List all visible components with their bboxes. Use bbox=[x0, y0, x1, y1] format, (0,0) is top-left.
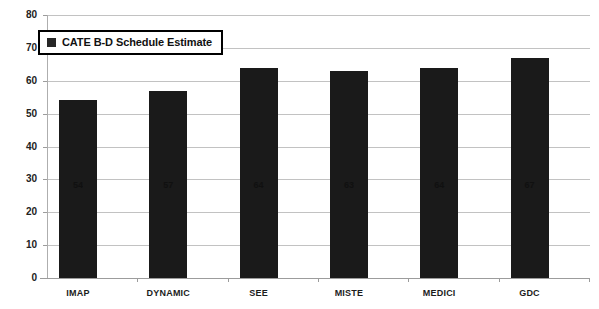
bar-miste: 63 bbox=[330, 71, 368, 278]
bar-value-label: 54 bbox=[59, 180, 97, 190]
x-tick-label-medici: MEDICI bbox=[394, 288, 484, 298]
x-tick-mark bbox=[137, 278, 138, 282]
x-tick-mark bbox=[228, 278, 229, 282]
bar-medici: 64 bbox=[420, 68, 458, 278]
bar-gdc: 67 bbox=[511, 58, 549, 278]
bar-value-label: 63 bbox=[330, 180, 368, 190]
bar-value-label: 64 bbox=[420, 180, 458, 190]
x-axis-line bbox=[40, 278, 590, 279]
x-tick-label-imap: IMAP bbox=[33, 288, 123, 298]
x-tick-mark bbox=[589, 278, 590, 282]
x-tick-mark bbox=[318, 278, 319, 282]
bar-value-label: 67 bbox=[511, 180, 549, 190]
y-tick-label: 60 bbox=[3, 76, 37, 86]
x-tick-label-gdc: GDC bbox=[485, 288, 575, 298]
bar-dynamic: 57 bbox=[149, 91, 187, 278]
y-tick-label: 40 bbox=[3, 142, 37, 152]
bar-imap: 54 bbox=[59, 100, 97, 278]
bar-see: 64 bbox=[240, 68, 278, 278]
x-tick-label-miste: MISTE bbox=[304, 288, 394, 298]
y-tick-label: 80 bbox=[3, 10, 37, 20]
y-tick-label: 10 bbox=[3, 240, 37, 250]
legend-square-icon bbox=[47, 38, 56, 47]
y-tick-label: 0 bbox=[3, 273, 37, 283]
y-tick-label: 50 bbox=[3, 109, 37, 119]
legend-label: CATE B-D Schedule Estimate bbox=[62, 36, 212, 48]
bar-value-label: 57 bbox=[149, 180, 187, 190]
y-tick-label: 70 bbox=[3, 43, 37, 53]
chart-legend: CATE B-D Schedule Estimate bbox=[38, 30, 223, 55]
x-tick-label-dynamic: DYNAMIC bbox=[123, 288, 213, 298]
y-tick-label: 20 bbox=[3, 207, 37, 217]
y-tick-label: 30 bbox=[3, 174, 37, 184]
x-tick-mark bbox=[499, 278, 500, 282]
x-tick-label-see: SEE bbox=[214, 288, 304, 298]
x-tick-mark bbox=[408, 278, 409, 282]
bar-chart: 01020304050607080 545764636467 IMAPDYNAM… bbox=[0, 0, 599, 309]
bar-value-label: 64 bbox=[240, 180, 278, 190]
